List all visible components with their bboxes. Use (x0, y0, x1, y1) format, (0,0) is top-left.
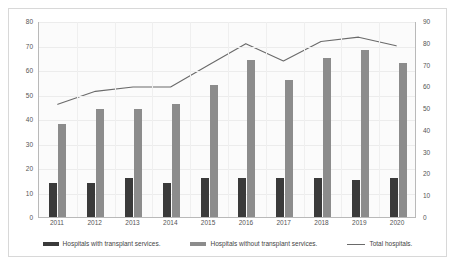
y-axis-left-tick: 30 (26, 142, 33, 149)
y-axis-left-tick: 10 (26, 191, 33, 198)
chart-container: 80706050403020100 9080706050403020100 20… (0, 0, 455, 265)
bar-gray-swatch-icon (190, 242, 206, 246)
bar (96, 109, 104, 217)
bar (276, 178, 284, 217)
grid-line (39, 96, 415, 97)
y-axis-right: 9080706050403020100 (419, 22, 447, 218)
x-axis-tick: 2018 (314, 220, 328, 227)
grid-line (39, 47, 415, 48)
x-axis-tick: 2012 (87, 220, 101, 227)
bar-dark-swatch-icon (43, 242, 59, 246)
x-axis-tick: 2016 (239, 220, 253, 227)
y-axis-right-tick: 30 (423, 150, 430, 157)
bar (361, 50, 369, 217)
bar (247, 60, 255, 217)
bar (390, 178, 398, 217)
y-axis-left-tick: 20 (26, 166, 33, 173)
bar (49, 183, 57, 217)
bar (134, 109, 142, 217)
bar (201, 178, 209, 217)
grid-line (39, 71, 415, 72)
x-axis-tick: 2011 (50, 220, 64, 227)
x-axis-tick: 2014 (163, 220, 177, 227)
bar (87, 183, 95, 217)
x-axis-tick: 2013 (125, 220, 139, 227)
y-axis-left: 80706050403020100 (8, 22, 36, 218)
legend-item-total: Total hospitals. (347, 241, 412, 248)
y-axis-right-tick: 90 (423, 19, 430, 26)
grid-line-vertical (379, 22, 380, 217)
y-axis-left-tick: 70 (26, 44, 33, 51)
grid-line-vertical (190, 22, 191, 217)
bar (238, 178, 246, 217)
y-axis-right-tick: 40 (423, 128, 430, 135)
y-axis-right-tick: 70 (423, 63, 430, 70)
y-axis-left-tick: 50 (26, 93, 33, 100)
bar (352, 180, 360, 217)
x-axis: 2011201220132014201520162017201820192020 (38, 220, 416, 234)
legend-item-with-transplant: Hospitals with transplant services. (43, 241, 161, 248)
bar (125, 178, 133, 217)
y-axis-right-tick: 60 (423, 84, 430, 91)
grid-line-vertical (341, 22, 342, 217)
grid-line-vertical (304, 22, 305, 217)
grid-line-vertical (266, 22, 267, 217)
bar (58, 124, 66, 217)
x-axis-tick: 2015 (201, 220, 215, 227)
bar (314, 178, 322, 217)
line-swatch-icon (347, 244, 365, 245)
y-axis-left-tick: 40 (26, 117, 33, 124)
bar (323, 58, 331, 217)
bar (172, 104, 180, 217)
y-axis-left-tick: 0 (29, 215, 33, 222)
grid-line-vertical (228, 22, 229, 217)
bar (210, 85, 218, 217)
chart-legend: Hospitals with transplant services. Hosp… (8, 236, 447, 252)
y-axis-left-tick: 80 (26, 19, 33, 26)
grid-line-vertical (115, 22, 116, 217)
bar (399, 63, 407, 217)
x-axis-tick: 2019 (352, 220, 366, 227)
legend-item-without-transplant: Hospitals without transplant services. (190, 241, 317, 248)
y-axis-right-tick: 20 (423, 171, 430, 178)
y-axis-right-tick: 0 (423, 215, 427, 222)
legend-label-without-transplant: Hospitals without transplant services. (210, 241, 317, 248)
y-axis-right-tick: 80 (423, 41, 430, 48)
y-axis-left-tick: 60 (26, 68, 33, 75)
x-axis-tick: 2017 (276, 220, 290, 227)
y-axis-right-tick: 50 (423, 106, 430, 113)
plot-area (38, 22, 416, 218)
x-axis-tick: 2020 (390, 220, 404, 227)
legend-label-with-transplant: Hospitals with transplant services. (63, 241, 161, 248)
bar (285, 80, 293, 217)
grid-line (39, 22, 415, 23)
bar (163, 183, 171, 217)
grid-line-vertical (77, 22, 78, 217)
legend-label-total: Total hospitals. (369, 241, 412, 248)
grid-line-vertical (152, 22, 153, 217)
y-axis-right-tick: 10 (423, 193, 430, 200)
